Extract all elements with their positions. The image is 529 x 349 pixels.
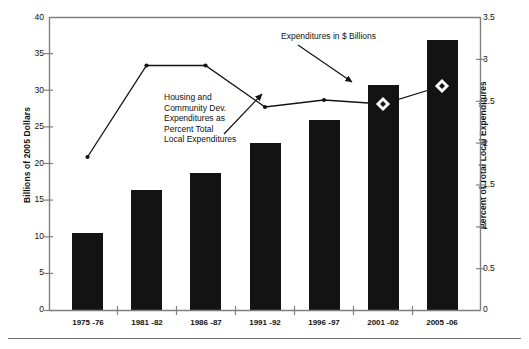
x-axis-label-2005-06: 2005 -06	[407, 318, 477, 327]
bar-series-annotation: Expenditures in $ Billions	[281, 31, 461, 42]
y-axis-left-tick-25: 25	[22, 121, 44, 131]
bar-2001-02	[368, 85, 399, 310]
y-axis-left-tick-0: 0	[22, 304, 44, 314]
y-axis-right-tick-3: 3	[483, 54, 509, 64]
bar-1975-76	[72, 233, 103, 310]
left-axis-ticks	[44, 54, 53, 311]
bar-1986-87	[190, 173, 221, 310]
y-axis-left-tick-35: 35	[22, 48, 44, 58]
bar-1991-92	[250, 143, 281, 310]
chart-figure: Billions of 2005 Dollars Percent of Tota…	[0, 0, 529, 349]
bar-annotation-leader	[298, 45, 352, 82]
y-axis-right-tick-0-5: 0.5	[483, 263, 509, 273]
y-axis-right-tick-3-5: 3.5	[483, 12, 509, 22]
bar-1996-97	[309, 120, 340, 310]
y-axis-right-tick-1: 1	[483, 221, 509, 231]
y-axis-left-tick-30: 30	[22, 85, 44, 95]
y-axis-left-tick-15: 15	[22, 194, 44, 204]
line-series-annotation: Housing and Community Dev. Expenditures …	[164, 92, 264, 145]
bar-2005-06	[427, 40, 458, 310]
y-axis-left-tick-5: 5	[22, 267, 44, 277]
y-axis-right-tick-0: 0	[483, 304, 509, 314]
y-axis-left-tick-20: 20	[22, 158, 44, 168]
footer-divider	[8, 338, 521, 339]
y-axis-right-tick-2-5: 2.5	[483, 96, 509, 106]
y-axis-left-tick-40: 40	[22, 12, 44, 22]
bar-1981-82	[131, 190, 162, 310]
y-axis-left-tick-10: 10	[22, 231, 44, 241]
y-axis-right-tick-2: 2	[483, 138, 509, 148]
y-axis-right-tick-1-5: 1.5	[483, 179, 509, 189]
